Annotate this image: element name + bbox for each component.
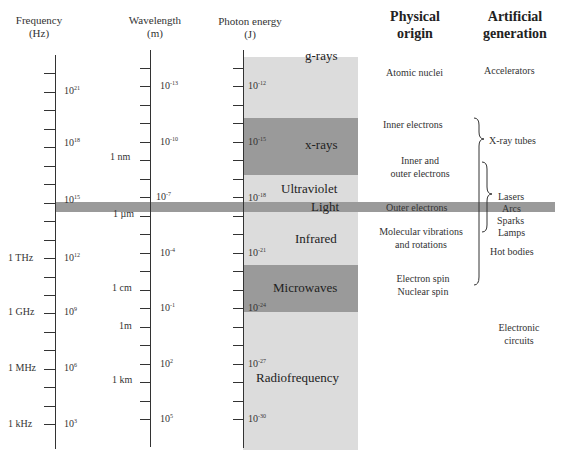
physical-origin-header-line1: Physical [370,8,460,25]
tick [233,290,244,291]
power-exponent: -7 [166,191,171,197]
power-exponent: 2 [170,358,173,364]
tick [233,308,244,309]
power-base: 10 [64,362,74,373]
artificial-generation-header-line2: generation [470,25,560,42]
band-label-x-rays: x-rays [305,137,338,153]
tick [44,295,55,296]
power-exponent: 12 [74,252,80,258]
tick [140,142,151,143]
power-exponent: 21 [74,85,80,91]
origin-nuclear-spin: Nuclear spin [383,285,463,298]
wavelength-label-1e-13: 10-13 [160,80,178,91]
tick [233,401,244,402]
tick [44,332,55,333]
tick [140,160,151,161]
power-exponent: -18 [258,192,266,198]
power-exponent: 5 [170,413,173,419]
power-base: 10 [248,413,258,424]
tick [140,271,151,272]
band-label-radiofrequency: Radiofrequency [256,370,339,386]
energy-label-1e-12: 10-12 [248,80,266,91]
origin-outer-electrons: Outer electrons [386,201,447,214]
tick [233,234,244,235]
power-base: 10 [160,80,170,91]
energy-label-1e-15: 10-15 [248,136,266,147]
frequency-label-1e21: 1021 [64,85,80,96]
artificial-generation-header-line1: Artificial [470,8,560,25]
energy-label-1e-30: 10-30 [248,413,266,424]
power-exponent: -13 [170,80,178,86]
tick [233,327,244,328]
band-label-microwaves: Microwaves [273,280,337,296]
tick [233,123,244,124]
tick [233,105,244,106]
gen-electronic-line2: circuits [488,334,550,347]
band-label-g-rays: g-rays [305,48,338,64]
power-exponent: 15 [74,194,80,200]
tick [140,327,151,328]
power-exponent: -27 [258,358,266,364]
energy-label-1e-27: 10-27 [248,358,266,369]
tick [44,73,55,74]
origin-molecular-line1: Molecular vibrations [371,225,471,238]
power-base: 10 [248,80,258,91]
frequency-label-1e6: 106 [64,362,77,373]
tick [233,160,244,161]
gen-electronic-circuits: Electronic circuits [488,321,550,347]
power-base: 10 [64,306,74,317]
gen-electronic-line1: Electronic [488,321,550,334]
power-base: 10 [248,302,258,313]
tick [140,308,151,309]
tick [140,234,151,235]
power-exponent: -10 [170,136,178,142]
tick [44,184,55,185]
tick [44,350,55,351]
energy-label-1e-24: 10-24 [248,302,266,313]
tick [233,345,244,346]
frequency-label-1e9: 109 [64,306,77,317]
frequency-label-1e3: 103 [64,418,77,429]
power-exponent: -30 [258,413,266,419]
power-base: 10 [160,302,170,313]
band-label-ultraviolet: Ultraviolet [281,181,337,197]
frequency-axis-line [55,55,56,449]
brace-lasers-icon [480,161,494,233]
tick [233,253,244,254]
photon-energy-header-title: Photon energy [208,15,292,28]
power-base: 10 [160,413,170,424]
power-base: 10 [64,418,74,429]
gen-accelerators: Accelerators [484,64,535,77]
tick [140,216,151,217]
wavelength-header-title: Wavelength [122,14,188,27]
tick [44,277,55,278]
tick [140,68,151,69]
frequency-named-thz: 1 THz [8,252,33,263]
tick [233,68,244,69]
energy-label-1e-21: 10-21 [248,247,266,258]
tick [140,105,151,106]
wavelength-named-km: 1 km [112,374,132,385]
wavelength-label-1e5: 105 [160,413,173,424]
power-exponent: -24 [258,302,266,308]
tick [44,110,55,111]
wavelength-label-1e-10: 10-10 [160,136,178,147]
power-base: 10 [64,194,74,205]
tick [44,203,55,204]
artificial-generation-header: Artificial generation [470,8,560,42]
gen-xray-tubes: X-ray tubes [489,134,536,147]
frequency-named-khz: 1 kHz [8,418,32,429]
power-exponent: -12 [258,80,266,86]
power-exponent: -21 [258,247,266,253]
tick [140,419,151,420]
frequency-header-title: Frequency [8,14,70,27]
wavelength-named-nm: 1 nm [110,151,130,162]
power-exponent: 3 [74,418,77,424]
tick [44,387,55,388]
power-exponent: -4 [170,247,175,253]
power-base: 10 [160,358,170,369]
frequency-named-ghz: 1 GHz [8,306,34,317]
photon-energy-header-unit: (J) [208,28,292,41]
wavelength-named-m: 1m [119,320,132,331]
tick [44,129,55,130]
